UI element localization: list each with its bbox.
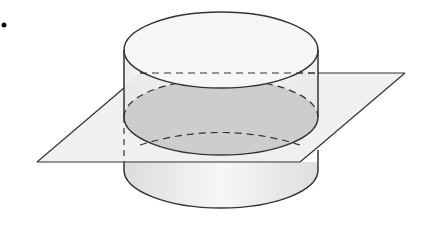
cylinder-top-ellipse [124,12,318,88]
cylinder-lower-body [124,162,318,208]
cylinder-plane-diagram: Cylinder intersected by a horizontal pla… [0,0,424,228]
bullet-marker [2,23,7,28]
